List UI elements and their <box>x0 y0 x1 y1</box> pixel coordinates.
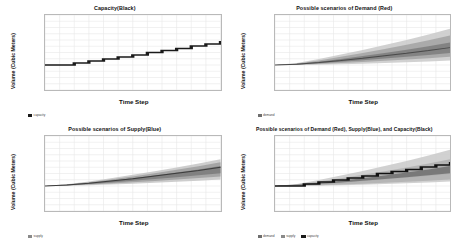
panel-combined: Possible scenarios of Demand (Red), Supp… <box>230 121 459 242</box>
legend-label: demand <box>263 114 275 117</box>
panel-capacity: Capacity(Black) Volume (Cubic Meters) 02… <box>0 0 230 121</box>
panel-title: Possible scenarios of Demand (Red) <box>230 5 459 11</box>
panel-demand: Possible scenarios of Demand (Red) Volum… <box>230 0 459 121</box>
y-axis-label: Volume (Cubic Meters) <box>240 33 246 89</box>
legend-item[interactable]: supply <box>28 235 43 238</box>
plot-area-combined: 0255075100125150175200225250275300024681… <box>274 135 452 212</box>
legend-item[interactable]: capacity <box>28 114 45 117</box>
panel-title: Possible scenarios of Supply(Blue) <box>0 126 230 132</box>
plot-area-capacity: 0255075100125150175200225250275300024681… <box>44 14 222 91</box>
figure-grid: Capacity(Black) Volume (Cubic Meters) 02… <box>0 0 459 242</box>
y-axis-label: Volume (Cubic Meters) <box>10 154 16 210</box>
legend-swatch <box>301 235 305 237</box>
legend-swatch <box>28 235 32 237</box>
x-axis-label: Time Step <box>46 219 222 226</box>
x-axis-label: Time Step <box>46 98 222 105</box>
plot-area-demand: 0255075100125150175200225250275300024681… <box>274 14 452 91</box>
legend-item[interactable]: capacity <box>301 235 318 238</box>
legend-supply: supply <box>28 235 43 238</box>
legend-label: capacity <box>307 235 319 238</box>
legend-demand: demand <box>258 114 275 117</box>
legend-item[interactable]: demand <box>258 235 275 238</box>
legend-capacity: capacity <box>28 114 45 117</box>
legend-item[interactable]: supply <box>281 235 296 238</box>
panel-title: Possible scenarios of Demand (Red), Supp… <box>230 126 459 132</box>
x-axis-label: Time Step <box>276 98 452 105</box>
legend-label: supply <box>286 235 295 238</box>
panel-title: Capacity(Black) <box>0 5 230 11</box>
legend-combined: demandsupplycapacity <box>258 235 319 238</box>
legend-swatch <box>258 114 262 116</box>
legend-label: capacity <box>34 114 46 117</box>
plot-area-supply: 0255075100125150175200225250275300024681… <box>44 135 222 212</box>
panel-supply: Possible scenarios of Supply(Blue) Volum… <box>0 121 230 242</box>
legend-swatch <box>258 235 262 237</box>
legend-label: supply <box>34 235 43 238</box>
legend-swatch <box>28 114 32 116</box>
y-axis-label: Volume (Cubic Meters) <box>10 33 16 89</box>
y-axis-label: Volume (Cubic Meters) <box>240 154 246 210</box>
legend-item[interactable]: demand <box>258 114 275 117</box>
legend-label: demand <box>263 235 275 238</box>
x-axis-label: Time Step <box>276 219 452 226</box>
legend-swatch <box>281 235 285 237</box>
